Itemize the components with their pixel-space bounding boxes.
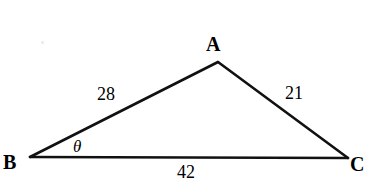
triangle-side-ac — [218, 62, 348, 158]
triangle-side-ab — [30, 62, 218, 157]
side-length-label-bc: 42 — [177, 163, 195, 181]
vertex-label-b: B — [3, 152, 16, 172]
side-length-label-ac: 21 — [285, 84, 303, 102]
angle-label-theta: θ — [73, 138, 81, 155]
triangle-drawing — [0, 0, 371, 187]
triangle-figure: A B C 28 21 42 θ — [0, 0, 371, 187]
triangle-side-bc — [30, 157, 348, 158]
side-length-label-ab: 28 — [97, 85, 115, 103]
vertex-label-c: C — [350, 154, 364, 174]
scan-artifact-speck — [41, 41, 44, 44]
vertex-label-a: A — [206, 34, 220, 54]
